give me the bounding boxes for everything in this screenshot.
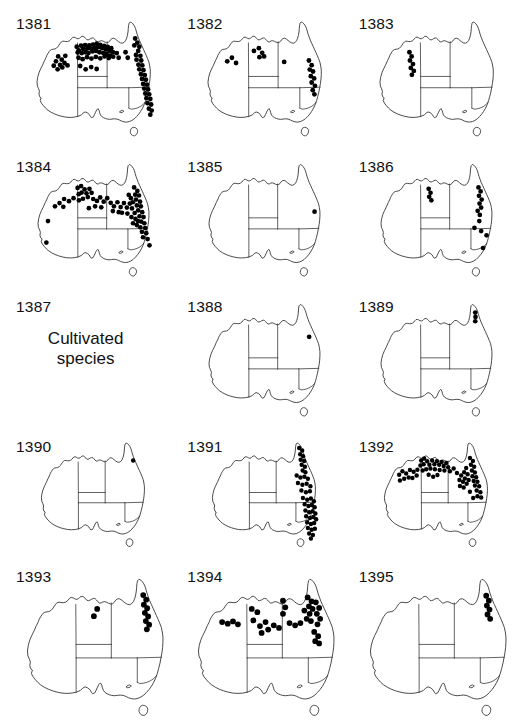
occurrence-dot xyxy=(308,489,312,493)
occurrence-dot xyxy=(140,210,145,215)
occurrence-dot xyxy=(311,88,316,93)
map-outline xyxy=(38,165,149,276)
occurrence-dot xyxy=(477,219,482,224)
occurrence-dot xyxy=(446,465,450,469)
occurrence-dot xyxy=(418,463,422,467)
occurrence-dot xyxy=(98,195,103,200)
occurrence-dot xyxy=(428,190,433,195)
occurrence-dot xyxy=(312,92,317,97)
occurrence-dot xyxy=(134,57,139,62)
occurrence-dot xyxy=(477,213,482,218)
occurrence-dot xyxy=(426,186,431,191)
occurrence-dot xyxy=(307,611,313,617)
occurrence-dot xyxy=(432,467,436,471)
occurrence-dot xyxy=(87,186,92,191)
occurrence-dot xyxy=(470,459,474,463)
map-outline xyxy=(370,579,505,715)
occurrence-dot xyxy=(301,454,305,458)
occurrence-dot xyxy=(307,531,311,535)
occurrence-dot xyxy=(451,466,455,470)
occurrence-dot xyxy=(314,517,318,521)
occurrence-dot xyxy=(251,618,257,624)
island-0 xyxy=(472,268,479,276)
occurrence-dot xyxy=(149,108,154,113)
occurrence-dot xyxy=(141,215,146,220)
occurrence-dot xyxy=(89,190,94,195)
occurrence-dot xyxy=(230,619,236,625)
occurrence-dot xyxy=(479,495,483,499)
occurrence-dot xyxy=(311,69,316,74)
occurrence-dot xyxy=(125,211,130,216)
occurrence-dot xyxy=(115,200,120,205)
occurrence-dot xyxy=(257,55,262,60)
occurrence-dot xyxy=(304,470,308,474)
occurrence-dot xyxy=(230,55,235,60)
occurrence-dot xyxy=(465,472,469,476)
occurrence-dot xyxy=(472,225,477,230)
occurrence-dot xyxy=(467,490,471,494)
occurrence-dot xyxy=(114,51,119,56)
occurrence-dot xyxy=(118,205,123,210)
occurrence-dot xyxy=(309,536,313,540)
occurrence-dot xyxy=(461,485,465,489)
occurrence-dot xyxy=(300,448,304,452)
map-number-label: 1394 xyxy=(187,569,222,585)
occurrence-dot xyxy=(435,473,439,477)
occurrence-dot xyxy=(472,470,476,474)
occurrence-dot xyxy=(299,475,303,479)
occurrence-dot xyxy=(44,240,49,245)
occurrence-dot xyxy=(306,477,310,481)
occurrence-dot xyxy=(402,477,406,481)
occurrence-dot xyxy=(313,83,318,88)
map-number-label: 1382 xyxy=(187,16,222,32)
occurrence-dot xyxy=(125,55,130,60)
occurrence-dot xyxy=(130,206,135,211)
occurrence-dot xyxy=(317,605,323,611)
occurrence-dot xyxy=(141,68,146,73)
occurrence-dot xyxy=(486,607,492,613)
distribution-map-grid: 138113821383138413851386Cultivatedspecie… xyxy=(0,0,514,724)
occurrence-dots xyxy=(473,310,478,323)
map-cell-1384: 1384 xyxy=(0,143,171,283)
occurrence-dot xyxy=(454,471,458,475)
occurrence-dot xyxy=(317,641,323,647)
island-0 xyxy=(139,705,148,715)
occurrence-dot xyxy=(65,63,70,68)
occurrence-dot xyxy=(144,626,150,632)
occurrence-dot xyxy=(472,465,476,469)
occurrence-dots xyxy=(313,209,318,214)
occurrence-dot xyxy=(137,193,142,198)
occurrence-dot xyxy=(143,597,149,603)
occurrence-dot xyxy=(312,629,318,635)
map-number-label: 1384 xyxy=(16,159,51,175)
occurrence-dot xyxy=(400,469,404,473)
occurrence-dot xyxy=(439,460,443,464)
map-cell-1385: 1385 xyxy=(171,143,342,283)
occurrence-dot xyxy=(116,55,121,60)
occurrence-dot xyxy=(444,461,448,465)
occurrence-dot xyxy=(271,622,277,628)
occurrence-dot xyxy=(313,527,317,531)
state-border-8 xyxy=(471,368,491,369)
occurrence-dot xyxy=(225,621,231,627)
occurrence-dot xyxy=(71,196,76,201)
occurrence-dot xyxy=(257,623,263,629)
cultivated-note-line-1: Cultivated xyxy=(0,329,171,349)
occurrence-dot xyxy=(137,214,142,219)
state-border-8 xyxy=(299,228,319,229)
occurrence-dot xyxy=(307,58,312,63)
occurrence-dot xyxy=(303,502,307,506)
occurrence-dot xyxy=(123,50,128,55)
occurrence-dot xyxy=(140,229,145,234)
occurrence-dot xyxy=(137,67,142,72)
occurrence-dot xyxy=(133,36,138,41)
occurrence-dot xyxy=(302,608,308,614)
occurrence-dot xyxy=(301,483,305,487)
occurrence-dot xyxy=(464,482,468,486)
occurrence-dot xyxy=(139,58,144,63)
occurrence-dot xyxy=(431,475,435,479)
occurrence-dot xyxy=(56,54,61,59)
map-number-label: 1386 xyxy=(359,159,394,175)
occurrence-dot xyxy=(133,217,138,222)
occurrence-dot xyxy=(447,469,451,473)
